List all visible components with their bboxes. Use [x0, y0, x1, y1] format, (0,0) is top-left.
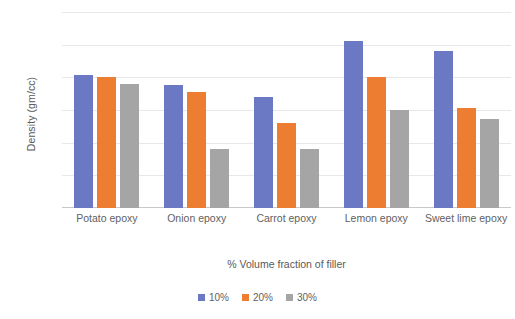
x-axis-label: Lemon epoxy [331, 212, 421, 225]
bar [254, 97, 273, 208]
bar-group [242, 12, 332, 208]
bar-groups [62, 12, 511, 208]
bar-group [331, 12, 421, 208]
legend-item[interactable]: 20% [242, 292, 273, 303]
bar [390, 110, 409, 208]
bar-group [152, 12, 242, 208]
bar-chart: Density (gm/cc) 1.251.21.151.11.0510.95 … [0, 0, 515, 319]
legend-item[interactable]: 10% [198, 292, 229, 303]
bar [187, 92, 206, 208]
legend-label: 30% [297, 292, 317, 303]
bar [210, 149, 229, 208]
y-axis-title: Density (gm/cc) [25, 29, 37, 199]
bar [457, 108, 476, 208]
bar [434, 51, 453, 208]
legend-label: 10% [209, 292, 229, 303]
legend-swatch [286, 294, 293, 301]
x-axis-title: % Volume fraction of filler [62, 258, 511, 270]
x-axis-category-labels: Potato epoxyOnion epoxyCarrot epoxyLemon… [62, 212, 511, 225]
chart-legend: 10%20%30% [0, 292, 515, 303]
x-axis-label: Onion epoxy [152, 212, 242, 225]
legend-item[interactable]: 30% [286, 292, 317, 303]
legend-swatch [198, 294, 205, 301]
bar [277, 123, 296, 208]
bar [74, 75, 93, 208]
x-axis-label: Carrot epoxy [242, 212, 332, 225]
legend-label: 20% [253, 292, 273, 303]
legend-swatch [242, 294, 249, 301]
bar [120, 84, 139, 208]
bar [97, 77, 116, 208]
x-axis-label: Sweet lime epoxy [421, 212, 511, 225]
bar [164, 85, 183, 208]
bar-group [421, 12, 511, 208]
bar [367, 77, 386, 208]
plot-area: 1.251.21.151.11.0510.95 [62, 12, 511, 208]
x-axis-label: Potato epoxy [62, 212, 152, 225]
bar-group [62, 12, 152, 208]
bar [480, 119, 499, 209]
bar [344, 41, 363, 208]
bar [300, 149, 319, 208]
